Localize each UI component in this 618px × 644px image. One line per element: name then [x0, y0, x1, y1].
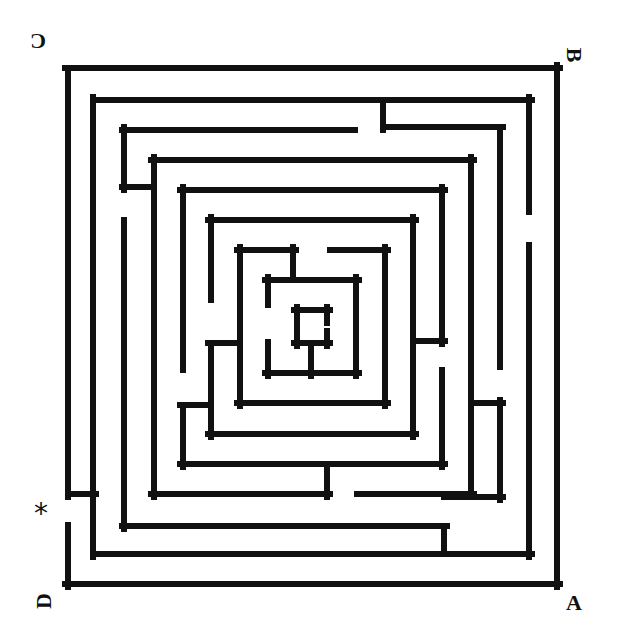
corner-label-d: D	[33, 593, 55, 609]
corner-label-c: C	[30, 30, 46, 52]
corner-label-a: A	[566, 592, 582, 614]
corner-label-b: B	[563, 48, 585, 63]
maze	[0, 0, 618, 644]
entrance-marker: *	[34, 500, 48, 528]
